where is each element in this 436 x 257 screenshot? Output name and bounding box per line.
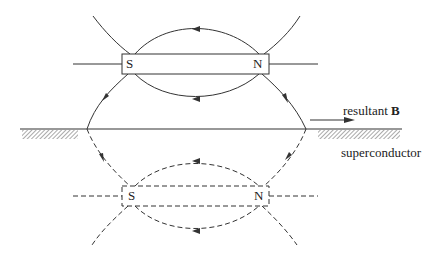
arrow-image-left-icon bbox=[99, 153, 104, 162]
field-line-up-left bbox=[93, 16, 130, 54]
image-bar-magnet bbox=[122, 186, 269, 206]
image-north-pole-label: N bbox=[254, 188, 263, 204]
image-field-line-top-arc bbox=[135, 164, 259, 187]
superconductor-label: superconductor bbox=[341, 145, 421, 161]
image-field-line-up-right bbox=[264, 129, 306, 186]
superconductor-hatch-left bbox=[22, 130, 78, 139]
field-line-down-left bbox=[87, 74, 128, 129]
bar-magnet bbox=[122, 54, 269, 74]
image-field-line-down-left bbox=[92, 206, 128, 245]
magnet-superconductor-diagram bbox=[0, 0, 436, 257]
image-field-line-down-right bbox=[262, 206, 297, 245]
arrow-image-right-icon bbox=[285, 152, 292, 160]
field-line-bottom-arc bbox=[135, 74, 259, 97]
image-field-line-bottom-arc bbox=[135, 206, 259, 229]
arrow-top-arc-icon bbox=[192, 26, 200, 32]
superconductor-hatch-right bbox=[318, 130, 400, 139]
field-line-down-right bbox=[262, 74, 306, 129]
field-line-top-arc bbox=[135, 29, 259, 55]
north-pole-label: N bbox=[253, 56, 262, 72]
image-field-line-up-left bbox=[87, 129, 130, 186]
resultant-text: resultant bbox=[343, 103, 391, 118]
resultant-b-label: resultant B bbox=[343, 103, 400, 119]
resultant-symbol: B bbox=[391, 103, 400, 118]
field-line-up-right bbox=[264, 16, 300, 54]
south-pole-label: S bbox=[126, 56, 133, 72]
image-south-pole-label: S bbox=[128, 188, 135, 204]
